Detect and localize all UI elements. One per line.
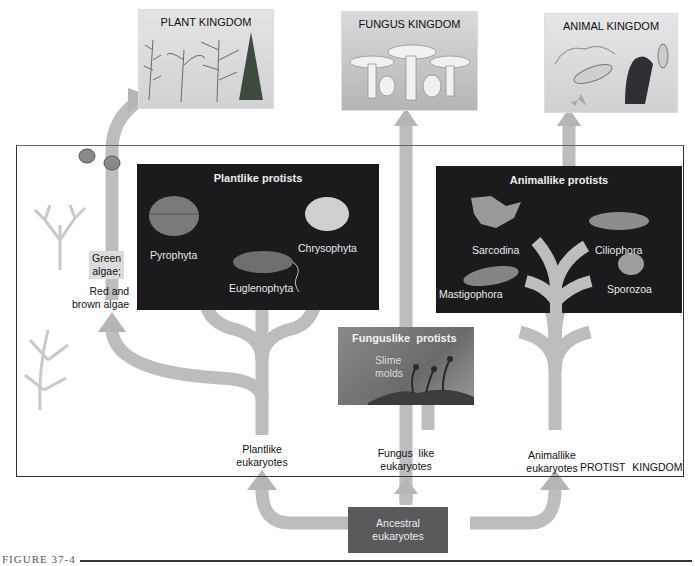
figure-rule [80, 560, 692, 562]
slime-mold-illustration [338, 327, 474, 405]
mastigophora-label: Mastigophora [439, 288, 503, 300]
plantlike-eukaryotes-label: Plantlike eukaryotes [220, 443, 304, 469]
chrysophyta-label: Chrysophyta [298, 242, 357, 254]
euglenophyta-label: Euglenophyta [229, 282, 293, 294]
sporozoa-label: Sporozoa [607, 283, 652, 295]
funguslike-protists-panel: Funguslike protists Slime molds [338, 327, 474, 405]
animallike-eukaryotes-label: Animallike eukaryotes [510, 449, 594, 475]
figure-label: FIGURE 37-4 [2, 553, 76, 565]
animallike-protists-panel: Animallike protists Sarcodina Ciliophora… [436, 166, 682, 313]
plantlike-protists-panel: Plantlike protists Pyrophyta Euglenophyt… [137, 164, 379, 310]
red-brown-algae-label: Red and brown algae [72, 285, 129, 311]
green-algae-label: Green algae; [89, 251, 124, 279]
funguslike-eukaryotes-label: Fungus like eukaryotes [364, 447, 448, 473]
sarcodina-label: Sarcodina [472, 244, 519, 256]
ancestral-eukaryotes-box: Ancestral eukaryotes [348, 507, 448, 553]
pyrophyta-label: Pyrophyta [150, 249, 197, 261]
ciliophora-label: Ciliophora [595, 244, 642, 256]
